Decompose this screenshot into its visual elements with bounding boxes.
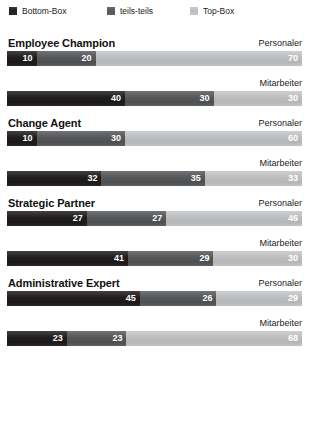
bar-segment-top-box: 30 — [213, 251, 302, 266]
chart-group: Employee Champion Personaler 10 20 70 Mi… — [7, 35, 303, 106]
bar-segment-bottom-box: 27 — [7, 211, 87, 226]
stacked-bar: 40 30 30 — [7, 91, 302, 106]
stacked-bar: 32 35 33 — [7, 171, 302, 186]
stacked-bar: 10 20 70 — [7, 51, 302, 66]
group-header: Change Agent Personaler — [7, 115, 303, 129]
row-series-label: Mitarbeiter — [259, 78, 302, 89]
row-series-label: Personaler — [258, 38, 302, 49]
bar-segment-top-box: 60 — [125, 131, 302, 146]
row-header: Mitarbeiter — [7, 155, 303, 169]
stacked-bar-chart: Bottom-Box teils-teils Top-Box Employee … — [0, 0, 310, 448]
bar-segment-top-box: 33 — [205, 171, 302, 186]
chart-legend: Bottom-Box teils-teils Top-Box — [7, 0, 303, 26]
bar-spacer — [7, 306, 303, 315]
row-series-label: Personaler — [258, 278, 302, 289]
bar-segment-teils-teils: 30 — [37, 131, 126, 146]
bar-segment-top-box: 68 — [126, 331, 302, 346]
legend-item-teils-teils: teils-teils — [107, 6, 153, 16]
bar-segment-bottom-box: 32 — [7, 171, 101, 186]
bar-segment-bottom-box: 10 — [7, 51, 37, 66]
group-title: Administrative Expert — [8, 277, 120, 289]
legend-item-bottom-box: Bottom-Box — [9, 6, 66, 16]
legend-label-bottom-box: Bottom-Box — [22, 6, 66, 16]
bar-segment-teils-teils: 35 — [101, 171, 204, 186]
bar-segment-teils-teils: 23 — [67, 331, 127, 346]
group-title: Strategic Partner — [8, 197, 95, 209]
legend-label-teils-teils: teils-teils — [120, 6, 153, 16]
bar-segment-bottom-box: 45 — [7, 291, 140, 306]
bar-segment-teils-teils: 27 — [87, 211, 167, 226]
stacked-bar: 10 30 60 — [7, 131, 302, 146]
chart-group: Administrative Expert Personaler 45 26 2… — [7, 275, 303, 346]
bar-segment-bottom-box: 23 — [7, 331, 67, 346]
teils-teils-swatch-icon — [107, 7, 115, 15]
bar-spacer — [7, 226, 303, 235]
bar-segment-teils-teils: 20 — [37, 51, 96, 66]
row-header: Mitarbeiter — [7, 75, 303, 89]
legend-label-top-box: Top-Box — [203, 6, 234, 16]
stacked-bar: 23 23 68 — [7, 331, 302, 346]
bar-spacer — [7, 66, 303, 75]
bottom-box-swatch-icon — [9, 7, 17, 15]
bar-segment-bottom-box: 41 — [7, 251, 128, 266]
bar-segment-top-box: 46 — [166, 211, 302, 226]
group-title: Employee Champion — [8, 37, 115, 49]
bar-segment-teils-teils: 30 — [125, 91, 214, 106]
bar-segment-top-box: 70 — [96, 51, 303, 66]
group-header: Administrative Expert Personaler — [7, 275, 303, 289]
row-series-label: Personaler — [258, 118, 302, 129]
stacked-bar: 45 26 29 — [7, 291, 302, 306]
bar-segment-teils-teils: 29 — [128, 251, 214, 266]
group-title: Change Agent — [8, 117, 81, 129]
row-series-label: Mitarbeiter — [259, 318, 302, 329]
bar-segment-bottom-box: 40 — [7, 91, 125, 106]
row-header: Mitarbeiter — [7, 235, 303, 249]
bar-spacer — [7, 146, 303, 155]
row-series-label: Mitarbeiter — [259, 238, 302, 249]
row-series-label: Mitarbeiter — [259, 158, 302, 169]
chart-group: Change Agent Personaler 10 30 60 Mitarbe… — [7, 115, 303, 186]
row-series-label: Personaler — [258, 198, 302, 209]
bar-segment-top-box: 29 — [216, 291, 302, 306]
top-box-swatch-icon — [190, 7, 198, 15]
row-header: Mitarbeiter — [7, 315, 303, 329]
chart-group: Strategic Partner Personaler 27 27 46 Mi… — [7, 195, 303, 266]
bar-segment-top-box: 30 — [214, 91, 303, 106]
bar-segment-teils-teils: 26 — [140, 291, 217, 306]
stacked-bar: 27 27 46 — [7, 211, 302, 226]
stacked-bar: 41 29 30 — [7, 251, 302, 266]
group-header: Strategic Partner Personaler — [7, 195, 303, 209]
group-header: Employee Champion Personaler — [7, 35, 303, 49]
legend-item-top-box: Top-Box — [190, 6, 234, 16]
bar-segment-bottom-box: 10 — [7, 131, 37, 146]
